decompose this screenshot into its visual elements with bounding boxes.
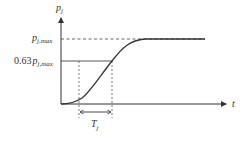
y-axis-label: pj [55, 2, 63, 15]
response-curve [61, 39, 205, 104]
x-axis-label: t [232, 98, 235, 109]
mid-level-label: 0.63pj,max [14, 55, 54, 68]
time-constant-label: Tj [91, 118, 99, 132]
max-level-label: pj,max [31, 32, 53, 45]
response-diagram: pj t pj,max 0.63pj,max Tj [0, 0, 245, 142]
